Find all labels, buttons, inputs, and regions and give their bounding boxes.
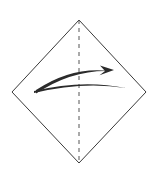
origami-figure-svg: Origami fold step diagram (0, 0, 154, 174)
origami-diagram: Origami fold step diagram (0, 0, 154, 174)
